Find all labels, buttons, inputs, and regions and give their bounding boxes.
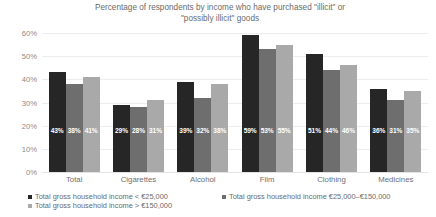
bar-group-bars: 43%38%41% — [42, 33, 106, 172]
legend-swatch-icon — [222, 195, 226, 199]
bar-group-bars: 36%31%35% — [364, 33, 428, 172]
bar[interactable]: 36% — [370, 89, 387, 172]
bar-value-label: 44% — [323, 127, 340, 134]
bar[interactable]: 32% — [194, 98, 211, 172]
legend-item[interactable]: Total gross household income > €150,000 — [28, 201, 172, 210]
y-axis-tick: 0% — [26, 168, 37, 177]
bar-value-label: 38% — [66, 127, 83, 134]
bar[interactable]: 51% — [306, 54, 323, 172]
bar-group: 59%53%55%Film — [235, 33, 299, 172]
legend-label: Total gross household income €25,000–€15… — [229, 192, 390, 201]
bar-value-label: 31% — [387, 127, 404, 134]
bar-group: 51%44%46%Clothing — [299, 33, 363, 172]
bar[interactable]: 35% — [404, 91, 421, 172]
legend-label: Total gross household income > €150,000 — [35, 201, 172, 210]
bar-value-label: 41% — [83, 127, 100, 134]
chart-title: Percentage of respondents by income who … — [50, 2, 390, 24]
bar[interactable]: 39% — [177, 82, 194, 172]
bar-value-label: 46% — [340, 127, 357, 134]
y-axis-tick: 50% — [22, 52, 37, 61]
bar[interactable]: 41% — [83, 77, 100, 172]
bar[interactable]: 29% — [113, 105, 130, 172]
legend-swatch-icon — [28, 195, 32, 199]
bar-value-label: 35% — [404, 127, 421, 134]
bar[interactable]: 38% — [211, 84, 228, 172]
bar-chart: Percentage of respondents by income who … — [0, 0, 436, 217]
x-axis-category-label: Total — [42, 175, 106, 184]
chart-title-line-2: "possibly illicit" goods — [50, 13, 390, 24]
legend-row: Total gross household income > €150,000 — [28, 201, 428, 210]
bar[interactable]: 43% — [49, 72, 66, 172]
x-axis-category-label: Clothing — [299, 175, 363, 184]
legend-item[interactable]: Total gross household income €25,000–€15… — [222, 192, 390, 201]
y-axis-tick: 20% — [22, 121, 37, 130]
bar-value-label: 51% — [306, 127, 323, 134]
bar-group: 29%28%31%Cigarettes — [106, 33, 170, 172]
bar[interactable]: 55% — [276, 45, 293, 172]
x-axis-category-label: Cigarettes — [106, 175, 170, 184]
bar[interactable]: 53% — [259, 49, 276, 172]
bar-group-bars: 59%53%55% — [235, 33, 299, 172]
bar-value-label: 38% — [211, 127, 228, 134]
legend-label: Total gross household income < €25,000 — [35, 192, 168, 201]
y-axis-tick: 10% — [22, 144, 37, 153]
chart-title-line-1: Percentage of respondents by income who … — [50, 2, 390, 13]
bar-value-label: 55% — [276, 127, 293, 134]
bar[interactable]: 31% — [147, 100, 164, 172]
legend-item[interactable]: Total gross household income < €25,000 — [28, 192, 168, 201]
x-axis-category-label: Medicines — [364, 175, 428, 184]
bar-group: 36%31%35%Medicines — [364, 33, 428, 172]
bar[interactable]: 44% — [323, 70, 340, 172]
bar-value-label: 59% — [242, 127, 259, 134]
bar-value-label: 31% — [147, 127, 164, 134]
legend-row: Total gross household income < €25,000To… — [28, 192, 428, 201]
bar-value-label: 39% — [177, 127, 194, 134]
bar-group-bars: 51%44%46% — [299, 33, 363, 172]
bar[interactable]: 38% — [66, 84, 83, 172]
plot-area: 0%10%20%30%40%50%60%43%38%41%Total29%28%… — [42, 33, 428, 172]
bar-group-bars: 39%32%38% — [171, 33, 235, 172]
bar-value-label: 53% — [259, 127, 276, 134]
bar[interactable]: 59% — [242, 35, 259, 172]
y-axis-tick: 40% — [22, 75, 37, 84]
x-axis-category-label: Alcohol — [171, 175, 235, 184]
bar-value-label: 43% — [49, 127, 66, 134]
legend-swatch-icon — [28, 204, 32, 208]
bar-group: 39%32%38%Alcohol — [171, 33, 235, 172]
bar-group-bars: 29%28%31% — [106, 33, 170, 172]
bar-value-label: 36% — [370, 127, 387, 134]
gridline-0%: 0% — [42, 172, 428, 173]
chart-legend: Total gross household income < €25,000To… — [28, 192, 428, 210]
y-axis-tick: 30% — [22, 98, 37, 107]
bar[interactable]: 28% — [130, 107, 147, 172]
bar-value-label: 32% — [194, 127, 211, 134]
y-axis-tick: 60% — [22, 29, 37, 38]
x-axis-category-label: Film — [235, 175, 299, 184]
bar-value-label: 28% — [130, 127, 147, 134]
bar[interactable]: 46% — [340, 65, 357, 172]
bar[interactable]: 31% — [387, 100, 404, 172]
bar-group: 43%38%41%Total — [42, 33, 106, 172]
bar-value-label: 29% — [113, 127, 130, 134]
